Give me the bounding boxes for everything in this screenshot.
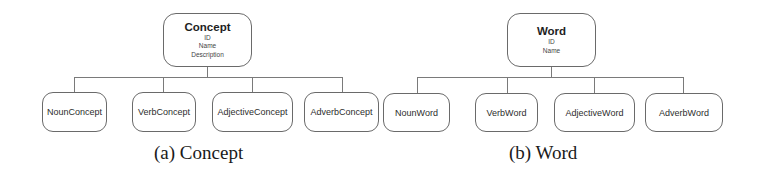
node-label: NounWord (395, 108, 438, 118)
connector-line (252, 77, 253, 92)
child-node-noun-word: NounWord (383, 93, 450, 132)
connector-line (163, 77, 164, 92)
figure-caption: (a) Concept (154, 142, 243, 164)
connector-line (683, 77, 684, 93)
connector-line (74, 77, 343, 78)
child-node-noun-concept: NounConcept (42, 92, 107, 132)
connector-line (594, 77, 595, 93)
connector-line (551, 67, 552, 77)
node-attribute: Description (191, 51, 224, 60)
node-attribute: ID (204, 34, 211, 43)
node-label: VerbWord (487, 108, 527, 118)
child-node-verb-word: VerbWord (475, 93, 538, 132)
child-node-adverb-concept: AdverbConcept (304, 92, 379, 132)
connector-line (74, 77, 75, 92)
connector-line (417, 77, 418, 93)
child-node-adjective-word: AdjectiveWord (554, 93, 635, 132)
figure-caption: (b) Word (509, 142, 577, 164)
node-title: Word (537, 25, 566, 38)
node-label: AdverbWord (659, 108, 709, 118)
connector-line (417, 77, 684, 78)
node-label: NounConcept (47, 107, 102, 117)
node-label: AdjectiveWord (566, 108, 624, 118)
child-node-verb-concept: VerbConcept (132, 92, 196, 132)
node-title: Concept (185, 21, 231, 34)
connector-line (342, 77, 343, 92)
node-label: AdverbConcept (310, 107, 372, 117)
child-node-adverb-word: AdverbWord (645, 93, 723, 132)
concept-root-node: Concept ID Name Description (163, 13, 252, 67)
connector-line (207, 67, 208, 77)
node-label: VerbConcept (138, 107, 190, 117)
child-node-adjective-concept: AdjectiveConcept (212, 92, 293, 132)
node-attribute: ID (548, 38, 555, 47)
connector-line (507, 77, 508, 93)
node-label: AdjectiveConcept (217, 107, 287, 117)
node-attribute: Name (543, 47, 560, 56)
word-root-node: Word ID Name (507, 13, 596, 67)
node-attribute: Name (199, 42, 216, 51)
